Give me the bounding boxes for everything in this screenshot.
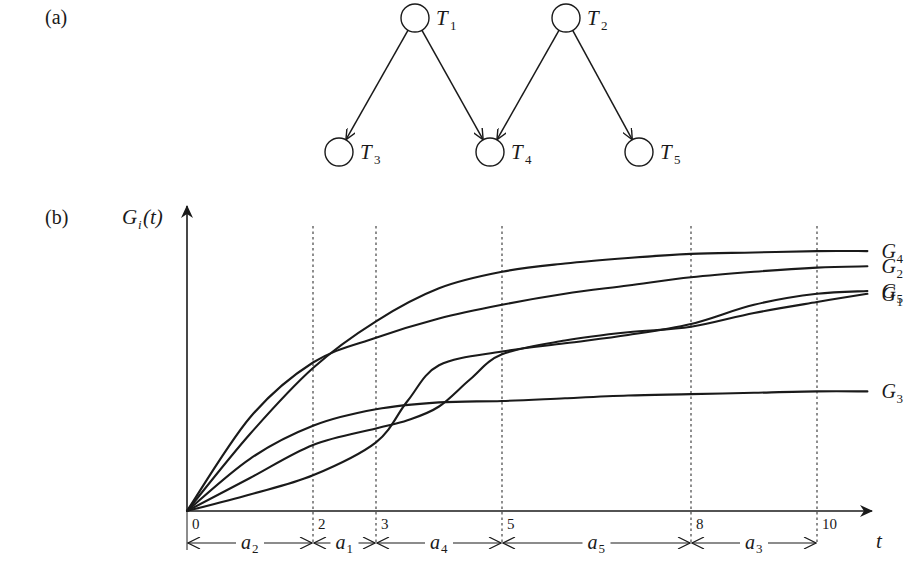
node-label-subscript: 5 [674, 152, 681, 167]
x-tick-10: 10 [822, 516, 837, 532]
curve-G3 [187, 391, 867, 511]
node-circle [325, 138, 353, 166]
node-label-subscript: 2 [601, 18, 608, 33]
interval-label: a [336, 531, 346, 553]
x-tick-2: 2 [318, 516, 326, 532]
node-label-subscript: 3 [374, 152, 381, 167]
task-graph: T1T2T3T4T5 [325, 4, 681, 167]
node-label: T [660, 140, 673, 164]
interval-label-subscript: 1 [347, 541, 354, 556]
x-tick-labels: 0235810 [192, 516, 837, 532]
node-label: T [511, 140, 524, 164]
node-label: T [587, 6, 600, 30]
node-T2: T2 [552, 4, 608, 33]
svg-text:i: i [138, 217, 142, 232]
node-T5: T5 [625, 138, 681, 167]
curve-label-G1: G [881, 283, 896, 305]
interval-label: a [588, 531, 598, 553]
node-T4: T4 [476, 138, 532, 167]
curve-G1 [187, 294, 867, 511]
x-tick-0: 0 [192, 516, 200, 532]
curves [187, 251, 867, 511]
curve-label-G2: G [881, 255, 896, 277]
panel-b-label: (b) [45, 206, 68, 229]
curve-G4 [187, 251, 867, 511]
curve-label-G3: G [881, 380, 896, 402]
node-label-subscript: 1 [450, 18, 457, 33]
node-label: T [436, 6, 449, 30]
interval-label-subscript: 4 [441, 541, 448, 556]
edge-T2-T4 [497, 30, 559, 139]
interval-label: a [430, 531, 440, 553]
node-circle [476, 138, 504, 166]
node-circle [401, 4, 429, 32]
x-tick-5: 5 [507, 516, 515, 532]
node-label: T [360, 140, 373, 164]
x-axis-label: t [876, 529, 883, 553]
interval-label-subscript: 2 [252, 541, 259, 556]
panel-a-label: (a) [45, 6, 67, 29]
svg-text:(t): (t) [143, 205, 163, 229]
node-T1: T1 [401, 4, 457, 33]
node-circle [625, 138, 653, 166]
x-tick-3: 3 [381, 516, 389, 532]
node-circle [552, 4, 580, 32]
x-tick-8: 8 [696, 516, 704, 532]
curve-label-subscript: 4 [896, 251, 903, 266]
interval-label: a [745, 531, 755, 553]
interval-label-subscript: 5 [599, 541, 606, 556]
node-T3: T3 [325, 138, 381, 167]
time-grid-lines [313, 226, 817, 545]
edge-T1-T4 [422, 30, 483, 139]
y-axis-label: G i (t) [122, 205, 163, 232]
interval-label: a [241, 531, 251, 553]
curve-label-subscript: 1 [896, 294, 903, 309]
node-label-subscript: 4 [525, 152, 532, 167]
curve-label-subscript: 3 [896, 391, 903, 406]
svg-text:G: G [122, 205, 137, 229]
figure-canvas: (a) T1T2T3T4T5 (b) G i (t) t 0235810 a2a… [0, 0, 924, 580]
edge-T1-T3 [346, 30, 408, 139]
curve-label-subscript: 2 [896, 266, 903, 281]
edge-T2-T5 [573, 30, 632, 139]
interval-label-subscript: 3 [756, 541, 763, 556]
curve-labels: G4G2G5G3G1 [881, 240, 903, 406]
